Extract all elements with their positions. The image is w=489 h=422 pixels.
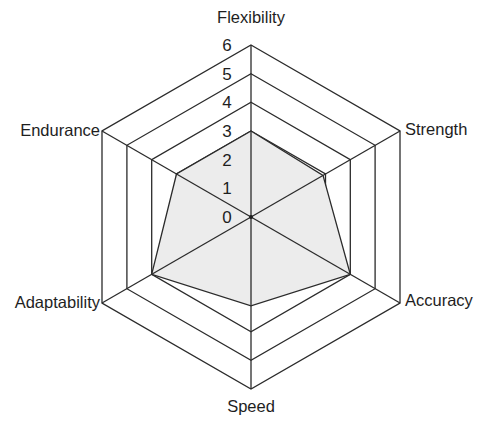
tick-label-5: 5: [222, 65, 231, 84]
center-point: [249, 215, 253, 219]
tick-label-4: 4: [222, 93, 231, 112]
axis-label-adaptability: Adaptability: [15, 293, 101, 311]
tick-label-3: 3: [222, 122, 231, 141]
tick-label-0: 0: [222, 208, 231, 227]
axis-label-flexibility: Flexibility: [217, 8, 286, 26]
axis-label-strength: Strength: [405, 120, 467, 138]
axis-spokes: [102, 45, 400, 389]
radar-chart: 0123456 Flexibility Strength Accuracy Sp…: [0, 0, 489, 422]
tick-label-2: 2: [222, 151, 231, 170]
axis-label-speed: Speed: [227, 397, 275, 415]
tick-label-6: 6: [222, 36, 231, 55]
tick-label-1: 1: [222, 179, 231, 198]
axis-label-endurance: Endurance: [20, 121, 100, 139]
axis-label-accuracy: Accuracy: [405, 291, 474, 309]
